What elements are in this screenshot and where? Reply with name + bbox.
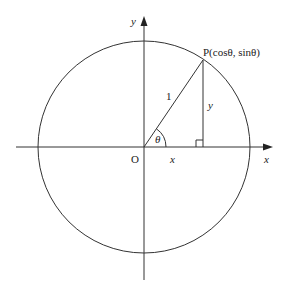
angle-label: θ bbox=[155, 134, 160, 145]
x-axis-label: x bbox=[264, 154, 269, 165]
diagram-graphics bbox=[0, 0, 286, 290]
adjacent-label: x bbox=[170, 154, 175, 165]
y-axis-label: y bbox=[131, 16, 136, 27]
y-axis-arrow-icon bbox=[141, 16, 148, 26]
x-axis-arrow-icon bbox=[263, 144, 273, 151]
origin-label: O bbox=[131, 154, 139, 165]
unit-circle-diagram: y x O P(cosθ, sinθ) 1 y x θ bbox=[0, 0, 286, 290]
right-angle-mark bbox=[196, 140, 203, 147]
radius-op bbox=[144, 60, 203, 147]
point-p-label: P(cosθ, sinθ) bbox=[203, 47, 260, 58]
opposite-label: y bbox=[208, 100, 213, 111]
hypotenuse-label: 1 bbox=[166, 91, 172, 102]
